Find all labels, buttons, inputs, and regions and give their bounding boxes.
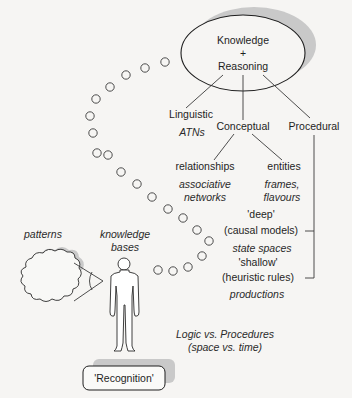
- branch-conceptual: Conceptual: [216, 120, 269, 132]
- trail-dot: [164, 205, 172, 213]
- trail-dot: [122, 71, 130, 79]
- person-head: [118, 258, 130, 270]
- note-logic-vs-procedures: Logic vs. Procedures: [176, 328, 275, 340]
- node-shallow: 'shallow': [238, 256, 277, 268]
- person-icon: [110, 258, 139, 351]
- root-label-reasoning: Reasoning: [218, 60, 268, 72]
- entities-example-1: frames,: [264, 178, 299, 190]
- node-entities: entities: [267, 160, 300, 172]
- entities-example-2: flavours: [264, 191, 302, 203]
- trail-dot: [198, 252, 206, 260]
- connector-entities: [252, 134, 282, 160]
- node-relationships: relationships: [176, 160, 235, 172]
- branch-procedural: Procedural: [289, 120, 340, 132]
- label-bases: bases: [111, 241, 140, 253]
- trail-dot: [92, 95, 100, 103]
- recognition-box: 'Recognition': [83, 359, 175, 390]
- trail-dot: [161, 58, 169, 66]
- recognition-label: 'Recognition': [94, 372, 153, 384]
- trail-dot: [148, 193, 156, 201]
- relationships-example-1: associative: [179, 178, 231, 190]
- trail-dot: [169, 267, 177, 275]
- root-label-knowledge: Knowledge: [217, 34, 269, 46]
- cloud-outline: [21, 249, 81, 301]
- label-knowledge: knowledge: [100, 228, 150, 240]
- linguistic-example: ATNs: [178, 126, 205, 138]
- trail-dot: [205, 237, 213, 245]
- trail-dot: [89, 129, 97, 137]
- trail-dot: [117, 168, 125, 176]
- root-label-plus: +: [240, 47, 246, 59]
- root-node: Knowledge + Reasoning: [181, 7, 316, 91]
- person-body: [110, 270, 139, 351]
- cloud-icon: [21, 247, 84, 302]
- trail-dot: [193, 226, 201, 234]
- connector-procedural: [263, 75, 310, 118]
- relationships-example-2: networks: [184, 191, 227, 203]
- node-shallow-sub: (heuristic rules): [222, 271, 294, 283]
- note-space-vs-time: (space vs. time): [188, 341, 262, 353]
- connector-relationships: [214, 134, 234, 160]
- label-patterns: patterns: [23, 228, 63, 240]
- trail-dot: [179, 214, 187, 222]
- trail-dot: [184, 263, 192, 271]
- trail-dot: [154, 266, 162, 274]
- trail-dot: [141, 64, 149, 72]
- trail-dot: [106, 83, 114, 91]
- trail-dot: [86, 112, 94, 120]
- shallow-example: productions: [229, 288, 285, 300]
- branch-linguistic: Linguistic: [169, 108, 213, 120]
- deep-example: state spaces: [233, 242, 293, 254]
- node-deep-sub: (causal models): [224, 224, 298, 236]
- trail-dot: [93, 149, 101, 157]
- knowledge-reasoning-diagram: Knowledge + Reasoning Linguistic ATNs Co…: [0, 0, 352, 398]
- node-deep: 'deep': [247, 208, 274, 220]
- trail-dot: [104, 151, 112, 159]
- trail-dot: [133, 180, 141, 188]
- cone-arc: [90, 272, 93, 290]
